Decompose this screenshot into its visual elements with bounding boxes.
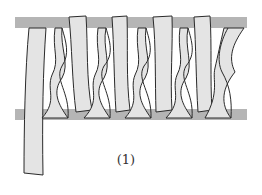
figure-caption: (1) [106, 152, 146, 167]
twist-1 [42, 28, 68, 118]
flat-strip-1 [69, 16, 92, 112]
flat-strip-2 [112, 16, 130, 112]
hanging-strip [24, 28, 46, 175]
flat-strip-3 [153, 16, 172, 112]
top-bar [15, 17, 247, 28]
flat-strip-4 [194, 16, 212, 112]
